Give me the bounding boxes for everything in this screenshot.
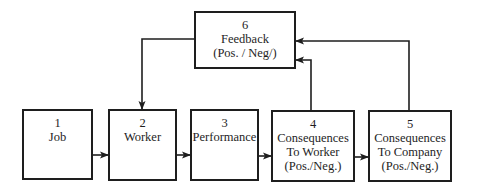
node-number: 4 — [310, 117, 317, 131]
edge-5-6 — [295, 38, 409, 112]
node-4: 4ConsequencesTo Worker(Pos./Neg.) — [272, 111, 354, 181]
edge-line — [295, 41, 409, 111]
edge-line — [142, 39, 195, 110]
edge-1-2 — [92, 152, 109, 159]
node-label-line: To Worker — [286, 145, 340, 159]
node-6: 6Feedback(Pos. / Neg/) — [195, 12, 295, 68]
node-2: 2Worker — [109, 110, 176, 180]
node-number: 3 — [221, 116, 227, 130]
edge-2-3 — [176, 152, 191, 159]
node-number: 6 — [242, 18, 248, 32]
edge-6-2 — [139, 39, 196, 110]
node-label-line: Performance — [193, 130, 257, 144]
node-label-line: (Pos./Neg.) — [382, 159, 439, 173]
edge-4-5 — [354, 154, 369, 161]
node-label-line: Feedback — [221, 32, 270, 46]
node-3: 3Performance — [191, 110, 258, 180]
node-label-line: Job — [49, 130, 66, 144]
edge-3-4 — [258, 153, 272, 160]
node-1: 1Job — [23, 110, 92, 179]
node-label-line: To Company — [378, 145, 443, 159]
node-label-line: Consequences — [374, 131, 446, 145]
flowchart-diagram: 1Job2Worker3Performance4ConsequencesTo W… — [0, 0, 480, 193]
node-label-line: Worker — [124, 130, 162, 144]
edge-line — [295, 60, 311, 111]
nodes-layer: 1Job2Worker3Performance4ConsequencesTo W… — [23, 12, 451, 181]
node-label-line: Consequences — [277, 131, 349, 145]
node-5: 5ConsequencesTo Company(Pos./Neg.) — [369, 111, 451, 181]
node-number: 5 — [407, 117, 413, 131]
node-label-line: (Pos./Neg.) — [285, 159, 342, 173]
node-label-line: (Pos. / Neg/) — [213, 46, 277, 60]
edge-4-6 — [295, 57, 311, 112]
node-number: 2 — [139, 116, 145, 130]
node-number: 1 — [54, 116, 60, 130]
